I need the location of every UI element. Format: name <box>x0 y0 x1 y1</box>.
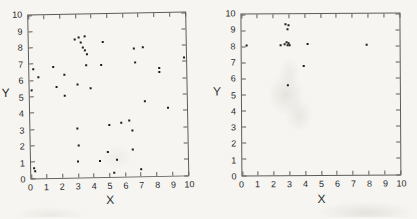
data-point <box>90 87 92 89</box>
tick-mark <box>78 173 79 177</box>
data-point <box>82 46 84 48</box>
tick-mark <box>169 13 170 17</box>
data-point <box>76 128 78 130</box>
y-tick-label: 2 <box>231 139 236 149</box>
x-tick-label: 7 <box>139 180 144 191</box>
tick-mark <box>241 14 245 15</box>
data-point <box>167 106 169 108</box>
tick-mark <box>46 174 47 178</box>
tick-mark <box>273 171 274 175</box>
data-point <box>279 44 281 46</box>
tick-mark <box>31 145 35 146</box>
tick-mark <box>396 45 400 46</box>
tick-mark <box>367 14 368 18</box>
data-point <box>108 124 110 126</box>
data-point <box>287 24 289 26</box>
data-point <box>63 94 65 96</box>
x-tick-label: 10 <box>184 179 194 190</box>
data-point <box>85 64 87 66</box>
data-point <box>287 84 289 86</box>
tick-mark <box>30 113 34 114</box>
x-axis-label: X <box>31 191 190 208</box>
data-point <box>140 169 142 171</box>
tick-mark <box>184 142 188 143</box>
tick-mark <box>336 14 337 18</box>
y-tick-label: 2 <box>20 142 25 152</box>
tick-mark <box>288 14 289 18</box>
tick-mark <box>172 172 173 176</box>
y-tick-label: 5 <box>19 92 24 102</box>
y-tick-label: 5 <box>231 90 236 100</box>
tick-mark <box>30 96 34 97</box>
scatter-figure-left: Y 012345678910 012345678910 X <box>0 0 210 219</box>
tick-mark <box>396 77 400 78</box>
tick-mark <box>156 172 157 176</box>
y-tick-label: 8 <box>231 41 236 51</box>
data-point <box>307 43 309 45</box>
data-point <box>79 41 81 43</box>
x-tick-label: 5 <box>107 181 112 192</box>
x-tick-label: 8 <box>155 180 160 191</box>
tick-mark <box>368 171 369 175</box>
tick-mark <box>396 158 400 159</box>
y-tick-labels: 012345678910 <box>7 15 27 180</box>
y-tick-label: 8 <box>18 43 23 53</box>
tick-mark <box>273 14 274 18</box>
data-point <box>33 168 35 170</box>
tick-mark <box>125 173 126 177</box>
tick-mark <box>242 30 246 31</box>
tick-mark <box>321 171 322 175</box>
y-tick-label: 9 <box>230 25 235 35</box>
data-point <box>132 149 134 151</box>
tick-mark <box>183 93 187 94</box>
x-tick-label: 4 <box>91 181 96 192</box>
tick-mark <box>352 171 353 175</box>
data-point <box>99 160 101 162</box>
data-point <box>116 159 118 161</box>
tick-mark <box>31 178 35 179</box>
tick-mark <box>182 61 186 62</box>
y-tick-label: 7 <box>231 57 236 67</box>
data-point <box>78 145 80 147</box>
x-tick-label: 2 <box>60 182 65 193</box>
y-tick-labels: 012345678910 <box>220 13 238 176</box>
tick-mark <box>242 159 246 160</box>
data-point <box>30 89 32 91</box>
data-point <box>78 36 80 38</box>
tick-mark <box>396 93 400 94</box>
tick-mark <box>396 174 400 175</box>
tick-mark <box>258 171 259 175</box>
tick-mark <box>28 15 29 19</box>
y-tick-label: 3 <box>19 125 24 135</box>
data-point <box>183 56 185 58</box>
tick-mark <box>395 13 399 14</box>
tick-mark <box>242 110 246 111</box>
data-point <box>289 44 291 46</box>
tick-mark <box>242 94 246 95</box>
y-tick-label: 1 <box>20 158 25 168</box>
tick-mark <box>59 15 60 19</box>
tick-mark <box>90 14 91 18</box>
tick-mark <box>75 15 76 19</box>
tick-mark <box>30 129 34 130</box>
y-tick-label: 4 <box>231 106 236 116</box>
tick-mark <box>242 78 246 79</box>
x-tick-label: 9 <box>383 179 388 190</box>
data-point <box>143 100 145 102</box>
x-tick-label: 10 <box>396 178 406 189</box>
data-point <box>83 35 85 37</box>
tick-mark <box>29 31 33 32</box>
tick-mark <box>43 15 44 19</box>
tick-mark <box>383 14 384 18</box>
x-tick-label: 6 <box>123 181 128 192</box>
y-tick-label: 9 <box>17 26 22 36</box>
data-point <box>32 68 34 70</box>
data-point <box>63 74 65 76</box>
scan-smudge-overlay <box>28 12 188 178</box>
y-tick-label: 7 <box>18 59 23 69</box>
data-point <box>107 151 109 153</box>
tick-mark <box>153 13 154 17</box>
data-point <box>76 84 78 86</box>
tick-mark <box>305 171 306 175</box>
tick-mark <box>181 28 185 29</box>
